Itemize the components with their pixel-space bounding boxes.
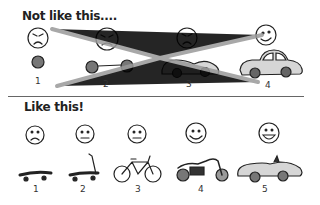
sad-face-icon — [26, 126, 44, 144]
step-number: 5 — [262, 184, 268, 194]
step-number: 3 — [186, 79, 192, 89]
neutral-face-icon — [128, 125, 146, 143]
wheel-icon — [32, 56, 44, 68]
step-number: 4 — [265, 80, 271, 90]
step-number: 2 — [80, 184, 86, 194]
step-number: 1 — [35, 76, 41, 86]
neutral-face-icon — [76, 125, 94, 143]
cross-out-mark — [52, 29, 262, 86]
step-number: 1 — [33, 184, 39, 194]
car-icon — [240, 50, 302, 78]
happy-face-icon — [259, 123, 279, 143]
illustration — [0, 0, 320, 205]
bicycle-icon — [114, 156, 161, 182]
motorcycle-icon — [177, 159, 228, 181]
step-number: 2 — [103, 79, 109, 89]
step-number: 3 — [135, 184, 141, 194]
scooter-icon — [70, 154, 98, 181]
angry-face-icon — [28, 28, 48, 48]
skateboard-icon — [20, 172, 51, 181]
smiling-face-icon — [186, 123, 206, 143]
convertible-car-icon — [238, 156, 302, 182]
step-number: 4 — [198, 184, 204, 194]
